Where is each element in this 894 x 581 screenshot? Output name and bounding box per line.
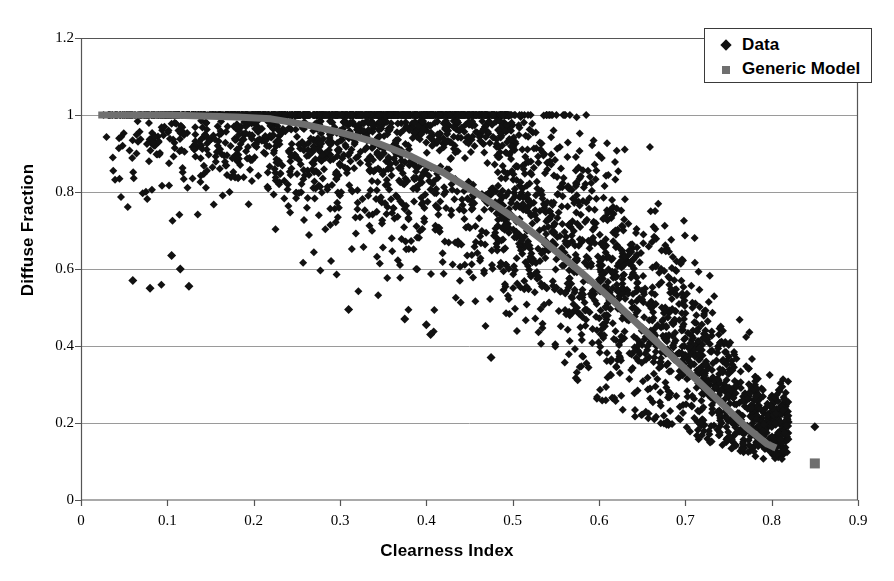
x-tick-label: 0.4: [396, 512, 456, 529]
chart-figure: A. Johnson et al. / Solar Energy 00.20.4…: [0, 0, 894, 581]
legend-label-generic-model: Generic Model: [742, 59, 860, 79]
x-tick-label: 0.1: [137, 512, 197, 529]
chart-legend: Data Generic Model: [704, 28, 872, 83]
legend-item-generic-model: Generic Model: [719, 57, 871, 81]
x-tick-label: 0.5: [483, 512, 543, 529]
x-axis-title: Clearness Index: [0, 541, 894, 561]
x-tick-label: 0.6: [569, 512, 629, 529]
y-axis-title: Diffuse Fraction: [18, 80, 40, 380]
x-tick-label: 0.2: [224, 512, 284, 529]
x-tick-label: 0.9: [828, 512, 888, 529]
legend-diamond-icon: [719, 38, 733, 52]
x-axis-tick-labels: 00.10.20.30.40.50.60.70.80.9: [0, 0, 894, 581]
x-tick-label: 0.7: [655, 512, 715, 529]
x-tick-label: 0.3: [310, 512, 370, 529]
x-tick-label: 0: [51, 512, 111, 529]
y-axis-title-text: Diffuse Fraction: [18, 164, 37, 297]
legend-square-icon: [719, 62, 733, 76]
x-tick-label: 0.8: [742, 512, 802, 529]
legend-label-data: Data: [742, 35, 779, 55]
legend-item-data: Data: [719, 33, 871, 57]
